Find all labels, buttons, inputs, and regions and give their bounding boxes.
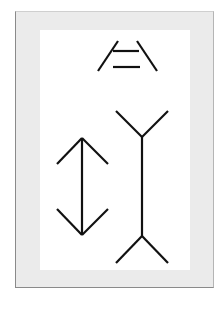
ponzo-illusion <box>98 41 157 71</box>
muller-lyer-tails <box>116 111 168 263</box>
illusion-figure <box>0 0 222 311</box>
tail-fin-line <box>116 111 142 137</box>
tail-fin-line <box>116 236 142 263</box>
arrowhead-fin-line <box>57 138 82 164</box>
arrowhead-fin-line <box>57 209 82 235</box>
muller-lyer-arrowheads <box>57 138 108 235</box>
tail-fin-line <box>142 236 168 263</box>
arrowhead-fin-line <box>82 138 108 164</box>
arrowhead-fin-line <box>82 209 108 235</box>
tail-fin-line <box>142 111 168 137</box>
